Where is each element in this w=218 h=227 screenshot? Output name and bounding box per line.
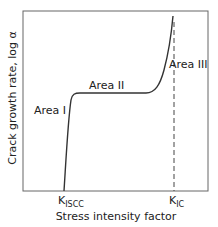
x-axis-label: Stress intensity factor: [56, 210, 177, 223]
area-1-label: Area I: [34, 104, 66, 117]
kiscc-label: KISCC: [58, 194, 84, 209]
kic-label: KIC: [169, 194, 185, 209]
crack-growth-diagram: Area I Area II Area III KISCC KIC Stress…: [0, 0, 218, 227]
y-axis-label: Crack growth rate, log α: [6, 31, 19, 164]
area-2-label: Area II: [89, 79, 124, 92]
kic-sub: IC: [176, 200, 184, 209]
crack-growth-curve: [64, 16, 173, 191]
kiscc-sub: ISCC: [65, 200, 84, 209]
plot-frame: [23, 11, 208, 191]
area-3-label: Area III: [169, 58, 208, 71]
